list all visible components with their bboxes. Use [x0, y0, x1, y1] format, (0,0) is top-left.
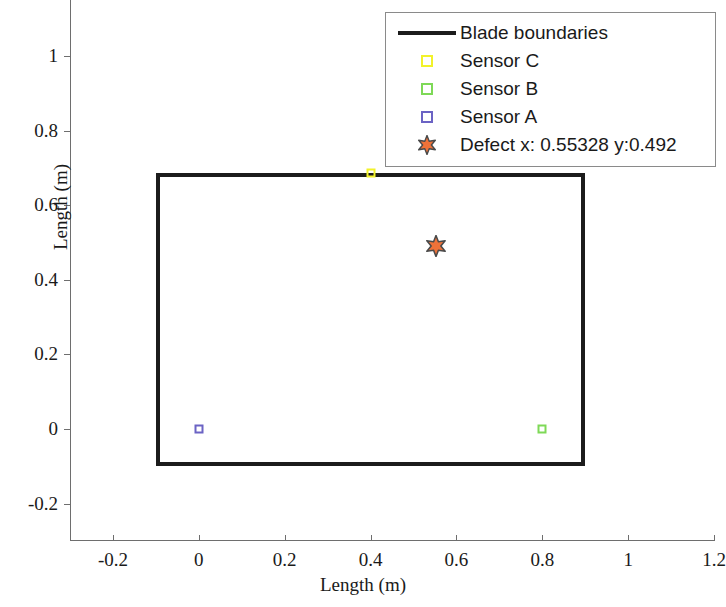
x-axis-line: [70, 540, 714, 541]
x-tick: [714, 535, 715, 541]
legend-item-label: Blade boundaries: [460, 22, 608, 44]
legend-key-star: [394, 131, 460, 159]
y-tick: [64, 504, 70, 505]
defect-marker: [425, 235, 447, 257]
x-tick: [628, 535, 629, 541]
legend-square-swatch: [421, 83, 433, 95]
y-tick-label: 1: [49, 45, 59, 67]
x-tick-label: -0.2: [98, 549, 128, 571]
x-tick-label: 0.4: [359, 549, 383, 571]
legend-square-swatch: [421, 111, 433, 123]
legend-item[interactable]: Defect x: 0.55328 y:0.492: [394, 131, 707, 159]
x-tick: [113, 535, 114, 541]
legend-item-label: Sensor B: [460, 78, 538, 100]
y-tick: [64, 429, 70, 430]
x-axis-label: Length (m): [0, 574, 726, 596]
legend-item[interactable]: Sensor C: [394, 47, 707, 75]
legend-item-label: Sensor C: [460, 50, 539, 72]
legend-item[interactable]: Blade boundaries: [394, 19, 707, 47]
figure-canvas: -0.200.20.40.60.81 -0.200.20.40.60.811.2…: [0, 0, 726, 607]
legend: Blade boundariesSensor CSensor BSensor A…: [385, 12, 716, 167]
y-tick-label: 0.2: [34, 343, 58, 365]
legend-item-label: Sensor A: [460, 106, 537, 128]
legend-item-label: Defect x: 0.55328 y:0.492: [460, 134, 677, 156]
x-tick: [285, 535, 286, 541]
legend-key-square: [394, 75, 460, 103]
legend-item[interactable]: Sensor A: [394, 103, 707, 131]
star-icon: [417, 135, 437, 155]
x-tick-label: 1.2: [702, 549, 726, 571]
legend-line-swatch: [398, 31, 456, 35]
legend-key-line: [394, 19, 460, 47]
x-tick-label: 0.8: [530, 549, 554, 571]
x-tick: [199, 535, 200, 541]
x-tick: [456, 535, 457, 541]
x-tick-label: 0.2: [273, 549, 297, 571]
legend-square-swatch: [421, 55, 433, 67]
y-tick: [64, 56, 70, 57]
x-tick: [542, 535, 543, 541]
blade-boundaries-rect: [156, 173, 585, 466]
legend-item[interactable]: Sensor B: [394, 75, 707, 103]
sensor-marker-b: [538, 425, 547, 434]
y-tick-label: 0.4: [34, 269, 58, 291]
legend-key-square: [394, 103, 460, 131]
x-tick-label: 1: [623, 549, 633, 571]
y-tick-label: -0.2: [28, 493, 58, 515]
x-tick-label: 0.6: [445, 549, 469, 571]
legend-key-square: [394, 47, 460, 75]
sensor-marker-c: [366, 169, 375, 178]
y-axis-label: Length (m): [50, 142, 72, 272]
x-tick-label: 0: [194, 549, 204, 571]
y-tick-label: 0: [49, 418, 59, 440]
y-tick-label: 0.8: [34, 120, 58, 142]
sensor-marker-a: [194, 425, 203, 434]
y-tick: [64, 280, 70, 281]
x-tick: [371, 535, 372, 541]
y-tick: [64, 354, 70, 355]
y-tick: [64, 131, 70, 132]
